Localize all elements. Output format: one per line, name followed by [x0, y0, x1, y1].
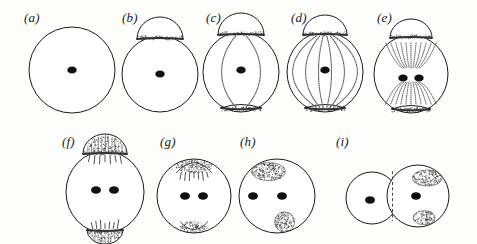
panel-label-c: (c) — [206, 10, 221, 26]
nucleus — [398, 74, 407, 81]
panel-label-f: (f) — [62, 134, 75, 150]
nucleus — [248, 192, 258, 200]
panel-label-e: (e) — [377, 10, 392, 26]
nucleus — [155, 70, 164, 77]
nucleus — [109, 186, 119, 194]
nucleus — [414, 74, 423, 81]
nucleus — [91, 186, 101, 194]
panel-label-g: (g) — [160, 134, 176, 150]
nucleus — [67, 66, 76, 73]
panel-g — [157, 159, 231, 233]
nucleus — [198, 192, 208, 200]
cell-body — [66, 151, 144, 233]
panel-label-d: (d) — [291, 10, 307, 26]
panel-label-b: (b) — [122, 10, 138, 26]
panel-b — [122, 17, 198, 112]
cell-division-figure: (a)(b)(c)(d)(e)(f)(g)(h)(i) — [0, 0, 477, 244]
nucleus — [411, 192, 421, 200]
nucleus — [236, 66, 245, 73]
panel-c — [203, 13, 279, 112]
panel-label-a: (a) — [24, 10, 40, 26]
nucleus — [320, 66, 329, 73]
panel-label-h: (h) — [240, 134, 256, 150]
panel-i — [346, 165, 449, 227]
nucleus — [277, 192, 287, 200]
nucleus — [365, 196, 375, 204]
figure-canvas — [0, 0, 477, 244]
panel-h — [239, 159, 315, 233]
panel-e — [374, 19, 448, 113]
panel-label-i: (i) — [336, 134, 349, 150]
panel-d — [287, 15, 363, 112]
panel-a — [29, 27, 115, 113]
nucleus — [180, 192, 190, 200]
panel-f — [66, 134, 144, 244]
